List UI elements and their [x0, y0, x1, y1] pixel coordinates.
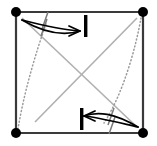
node-top-left	[11, 7, 21, 17]
bar-bottom	[80, 108, 83, 130]
bar-top	[84, 15, 87, 37]
node-bottom-left	[11, 128, 21, 138]
diagram-canvas	[0, 0, 157, 146]
node-top-right	[138, 7, 148, 17]
node-bottom-right	[138, 128, 148, 138]
figure-container: Square with diagonals, corner nodes and …	[0, 0, 157, 146]
